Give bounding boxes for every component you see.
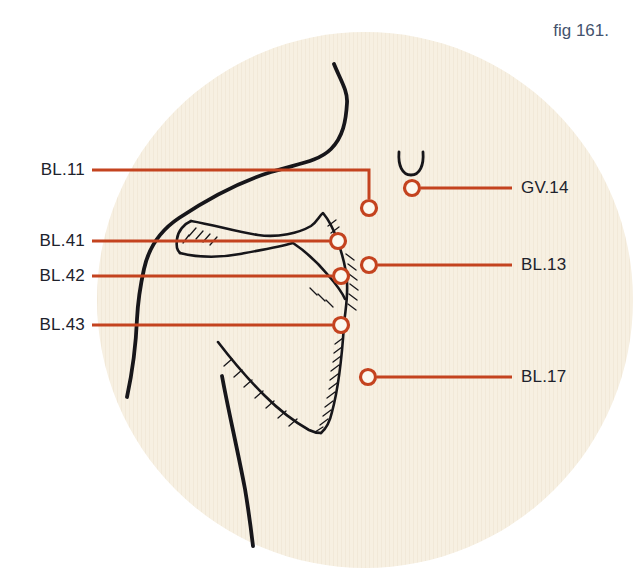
vertebra-prominens-notch-icon	[399, 152, 423, 175]
anatomy-diagram	[0, 0, 635, 588]
acromion-end-cap-line	[177, 221, 191, 253]
point-leader-lines	[92, 170, 512, 377]
scapula-lateral-border-line	[218, 342, 321, 433]
point-label-gv14: GV.14	[521, 177, 607, 199]
lower-spine-contour-line	[222, 376, 253, 546]
point-label-bl13: BL.13	[521, 254, 607, 276]
bl41-point-marker	[331, 234, 346, 249]
figure-caption: fig 161.	[509, 20, 609, 42]
bl11-point-marker	[362, 201, 377, 216]
infraspinous-hatching	[310, 288, 333, 307]
scapula-spine-bottom-line	[180, 243, 345, 299]
bl11-leader-line	[92, 170, 369, 199]
bl43-point-marker	[334, 318, 349, 333]
point-label-bl41: BL.41	[16, 230, 85, 252]
point-label-bl11: BL.11	[16, 159, 85, 181]
point-label-bl43: BL.43	[16, 314, 85, 336]
point-label-bl17: BL.17	[521, 366, 607, 388]
anatomy-linework	[127, 64, 423, 546]
gv14-point-marker	[405, 181, 420, 196]
point-markers	[331, 181, 420, 385]
point-label-bl42: BL.42	[16, 265, 85, 287]
bl17-point-marker	[361, 370, 376, 385]
bl42-point-marker	[334, 269, 349, 284]
figure-stage: fig 161. BL.11 BL.41 BL.42 BL.43 GV.14 B…	[0, 0, 635, 588]
bl13-point-marker	[362, 258, 377, 273]
